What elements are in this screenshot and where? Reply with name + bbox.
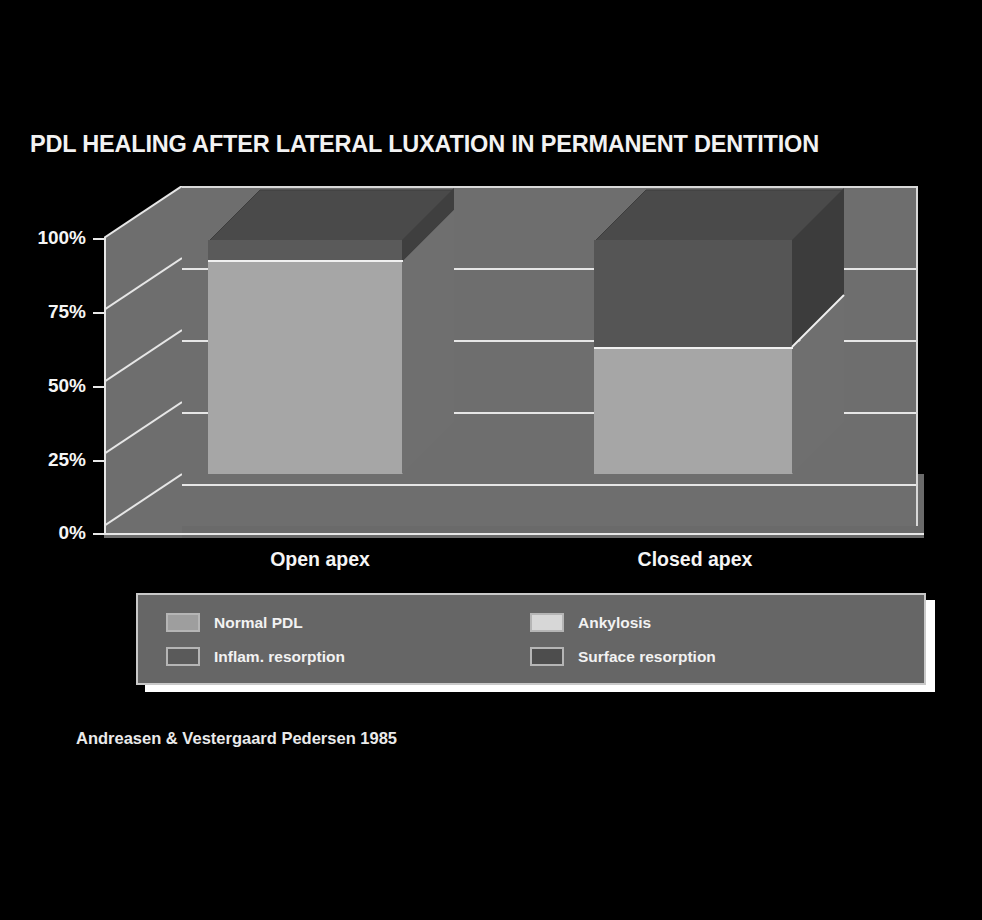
chart-plot-area (104, 186, 924, 538)
y-tick-75 (93, 312, 106, 314)
bar-open-apex-segment-divider (208, 260, 403, 262)
legend-item-ankylosis[interactable]: Ankylosis (530, 613, 651, 632)
bar-closed-apex-segment-divider-side (792, 295, 852, 355)
bar-open-apex-normal-pdl-side (402, 210, 462, 490)
legend-swatch-surface-resorption (530, 647, 564, 666)
y-axis-label-0: 0% (2, 522, 86, 544)
y-tick-25 (93, 460, 106, 462)
bar-closed-apex-segment-divider (594, 347, 793, 349)
legend-label-normal-pdl: Normal PDL (214, 614, 303, 632)
y-tick-100 (93, 238, 106, 240)
legend-label-ankylosis: Ankylosis (578, 614, 651, 632)
chart-left-wall (104, 186, 182, 538)
y-axis-label-75: 75% (2, 301, 86, 323)
y-axis-label-50: 50% (2, 375, 86, 397)
legend-item-inflam-resorption[interactable]: Inflam. resorption (166, 647, 345, 666)
bar-open-apex-normal-pdl-front (208, 262, 403, 474)
bar-closed-apex-normal-pdl-front (594, 349, 793, 474)
legend-swatch-inflam-resorption (166, 647, 200, 666)
legend-item-surface-resorption[interactable]: Surface resorption (530, 647, 716, 666)
legend-swatch-ankylosis (530, 613, 564, 632)
legend-item-normal-pdl[interactable]: Normal PDL (166, 613, 303, 632)
y-axis-label-100: 100% (2, 227, 86, 249)
x-axis-line (104, 533, 924, 535)
slide-canvas: PDL HEALING AFTER LATERAL LUXATION IN PE… (0, 0, 982, 920)
x-axis-label-closed-apex: Closed apex (570, 548, 820, 571)
legend-swatch-normal-pdl (166, 613, 200, 632)
legend-label-surface-resorption: Surface resorption (578, 648, 716, 666)
citation-text: Andreasen & Vestergaard Pedersen 1985 (76, 729, 397, 748)
y-tick-0 (93, 533, 106, 535)
y-tick-50 (93, 386, 106, 388)
legend-label-inflam-resorption: Inflam. resorption (214, 648, 345, 666)
y-axis-label-25: 25% (2, 449, 86, 471)
bar-open-apex-surface-resorption-front (208, 240, 403, 262)
page-title: PDL HEALING AFTER LATERAL LUXATION IN PE… (30, 131, 960, 158)
bar-closed-apex-surface-resorption-front (594, 240, 793, 348)
chart-legend: Normal PDL Inflam. resorption Ankylosis … (136, 593, 926, 685)
x-axis-label-open-apex: Open apex (200, 548, 440, 571)
